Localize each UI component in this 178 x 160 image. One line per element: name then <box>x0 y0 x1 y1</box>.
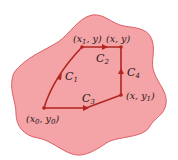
point-x-y <box>119 45 123 49</box>
path-independence-diagram: (x1, y) (x, y) (x, y1) (x0, y0) C1 C2 C3… <box>0 0 178 160</box>
point-x0-y0 <box>42 106 46 110</box>
point-x-y1 <box>119 93 123 97</box>
label-x-y: (x, y) <box>106 33 130 44</box>
